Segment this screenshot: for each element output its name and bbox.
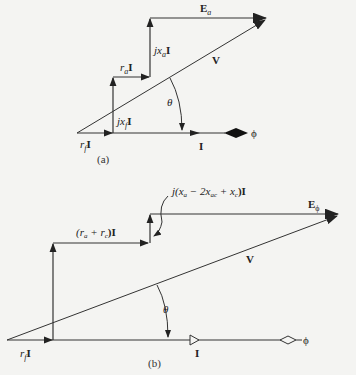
label-ra-rc-I: (ra + rc)I [76,226,116,240]
label-jxaI: jxaI [152,44,170,59]
I-arrow-icon [190,335,199,345]
label-I: I [195,347,199,359]
phi-diamond-icon [224,128,248,138]
label-rfI: rfI [20,347,31,362]
diagram-b: j(xa − 2xac + xc)I (ra + rc)I Eϕ V θ rfI… [7,185,338,370]
label-I: I [199,140,203,152]
V-vector [7,216,337,340]
I-arrow-icon [190,130,200,136]
label-raI: raI [120,61,133,76]
callout-curve [154,196,168,236]
caption-a: (a) [97,153,110,166]
label-jxfI: jxfI [115,115,131,130]
label-phi: ϕ [303,334,309,346]
label-theta: θ [167,96,173,108]
label-jx-expr: j(xa − 2xac + xc)I [170,185,246,199]
caption-b: (b) [148,357,161,370]
label-Ea: Ea [200,2,211,17]
diagram-a: Ea V jxaI raI jxfI rfI θ I ϕ (a) [77,2,266,166]
label-theta: θ [163,303,169,315]
phasor-diagrams: Ea V jxaI raI jxfI rfI θ I ϕ (a) j(xa − … [0,0,356,375]
label-Ephi: Eϕ [308,198,320,213]
label-phi: ϕ [251,127,257,139]
label-rfI: rfI [80,138,91,153]
label-V: V [212,54,220,66]
label-V: V [246,253,254,265]
phi-diamond-icon [280,336,296,344]
V-vector [77,20,265,133]
